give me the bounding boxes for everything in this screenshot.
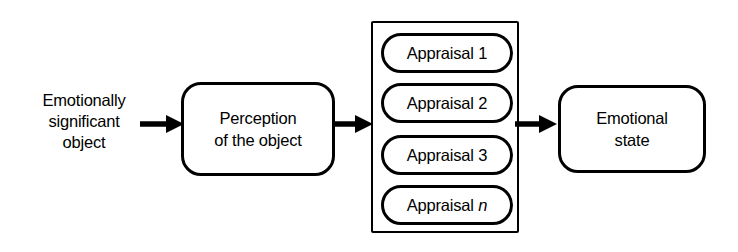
appraisal-group-container: Appraisal 1 Appraisal 2 Appraisal 3 Appr… [371, 21, 519, 233]
arrow-object-to-perception [140, 113, 184, 135]
input-object-label-line-3: object [20, 132, 148, 153]
appraisal-item-1-index: 1 [478, 44, 487, 63]
emotional-state-line-1: Emotional [596, 107, 668, 129]
appraisal-item-3-label: Appraisal [407, 146, 474, 165]
input-object-label-line-2: significant [20, 111, 148, 132]
perception-of-object-text: Perception of the object [214, 107, 301, 151]
appraisal-item-2: Appraisal 2 [381, 83, 513, 123]
emotional-state-line-2: state [596, 129, 668, 151]
arrow-perception-to-appraisals [333, 113, 373, 135]
emotional-state-text: Emotional state [596, 107, 668, 151]
appraisal-item-n-index: n [478, 196, 487, 215]
appraisal-item-n: Appraisal n [381, 185, 513, 225]
appraisal-item-2-label: Appraisal [407, 94, 474, 113]
perception-line-2: of the object [214, 129, 301, 151]
emotional-state-box: Emotional state [558, 85, 706, 173]
appraisal-item-n-label: Appraisal [407, 196, 474, 215]
appraisal-item-3-index: 3 [478, 146, 487, 165]
appraisal-item-1: Appraisal 1 [381, 33, 513, 73]
perception-line-1: Perception [214, 107, 301, 129]
appraisal-item-2-index: 2 [478, 94, 487, 113]
appraisal-flow-diagram: Emotionally significant object Perceptio… [0, 0, 738, 252]
arrow-appraisals-to-emotional-state [515, 113, 557, 135]
perception-of-object-box: Perception of the object [181, 82, 335, 176]
input-object-label-line-1: Emotionally [20, 90, 148, 111]
appraisal-item-1-label: Appraisal [407, 44, 474, 63]
input-object-label: Emotionally significant object [20, 90, 148, 153]
appraisal-item-3: Appraisal 3 [381, 135, 513, 175]
